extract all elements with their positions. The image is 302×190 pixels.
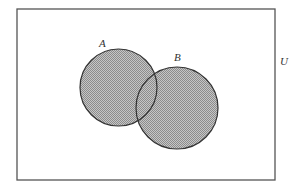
set-a-label: A bbox=[98, 37, 106, 49]
set-b-label: B bbox=[174, 51, 181, 63]
venn-diagram: A B U bbox=[0, 0, 302, 190]
universe-label: U bbox=[280, 55, 289, 67]
